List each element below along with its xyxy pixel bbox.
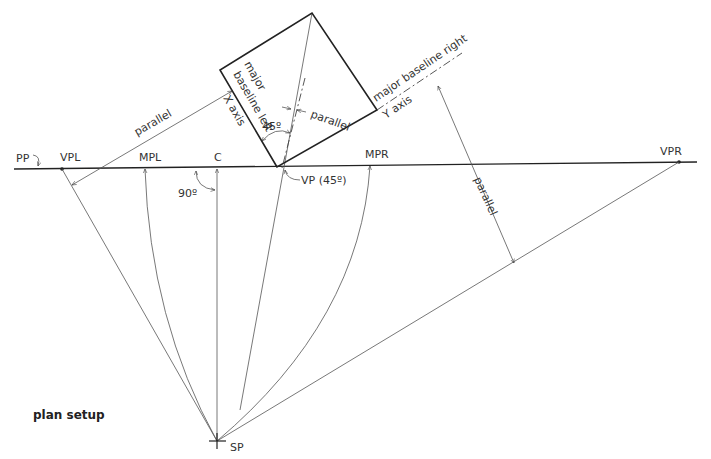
parallel-arrow-left-icon [282, 107, 291, 109]
parallel-left-arrow [72, 91, 232, 185]
angle-90-label: 90º [178, 187, 197, 200]
diagram-title: plan setup [33, 408, 105, 422]
vp45-label: VP (45º) [301, 174, 346, 187]
vp45-hook-arrow-icon [285, 170, 300, 180]
mpl-arc [145, 169, 217, 441]
sp-label: SP [230, 441, 244, 454]
pp-label: PP [16, 152, 30, 165]
mpr-label: MPR [365, 148, 389, 161]
vpr-label: VPR [660, 145, 682, 158]
parallel-right-arrow [438, 86, 514, 263]
vpr-to-sp-line [217, 162, 679, 441]
perspective-plan-setup-diagram: PP VPL MPL C MPR VPR SP 90º 45º VP (45º) [0, 0, 711, 459]
parallel-left-label: parallel [132, 107, 174, 139]
baseline-right-label: major baseline right [370, 31, 470, 104]
pp-label-group: PP [16, 152, 39, 166]
parallel-arrow-right-icon [297, 110, 306, 112]
c-label: C [214, 151, 222, 164]
dashed-parallel-line [282, 78, 305, 168]
parallel-right-label: parallel [471, 175, 500, 218]
angle-90-arc-icon [196, 171, 215, 190]
pp-hook-arrow-icon [33, 155, 39, 166]
vpl-label: VPL [60, 151, 81, 164]
parallel-inner-label: parallel [309, 108, 352, 134]
sight-lines [62, 13, 679, 441]
mpr-arc [217, 166, 370, 441]
picture-plane-line [14, 162, 697, 169]
vpl-to-sp-line [62, 169, 217, 441]
mpl-label: MPL [139, 151, 162, 164]
